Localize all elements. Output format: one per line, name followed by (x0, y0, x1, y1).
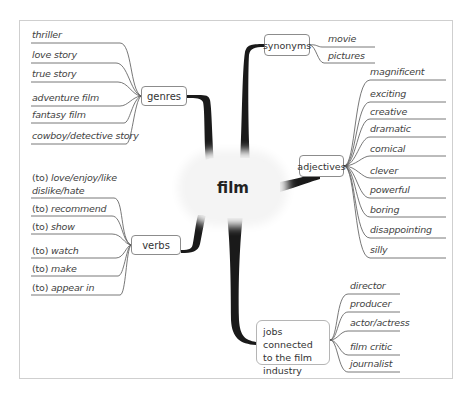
leaf-adjective: magnificent (370, 66, 424, 77)
verb-text: show (51, 221, 75, 232)
verb-text: appear in (51, 282, 94, 293)
node-synonyms-label: synonyms (263, 40, 311, 51)
leaf-adjective: silly (370, 244, 388, 255)
leaf-verb: (to) love/enjoy/like (32, 172, 117, 183)
verb-prefix: (to) (32, 263, 48, 274)
node-jobs-line-1: jobs connected (263, 325, 323, 351)
leaf-job: film critic (350, 341, 392, 352)
leaf-adjective: boring (370, 204, 399, 215)
leaf-verb-line2: dislike/hate (32, 185, 84, 196)
leaf-genre: true story (32, 68, 77, 79)
leaf-genre: love story (32, 49, 77, 60)
leaf-adjective: clever (370, 165, 398, 176)
leaf-job: actor/actress (350, 317, 410, 328)
node-verbs: verbs (131, 235, 181, 255)
leaf-job: journalist (350, 358, 392, 369)
leaf-adjective: creative (370, 106, 407, 117)
node-adjectives-label: adjectives (297, 161, 345, 172)
center-node-film: film (186, 158, 280, 218)
leaf-verb: (to) appear in (32, 282, 94, 293)
leaf-job: director (350, 280, 386, 291)
leaf-verb: (to) make (32, 263, 77, 274)
leaf-verb: (to) watch (32, 245, 79, 256)
leaf-genre: cowboy/detective story (32, 130, 139, 141)
verb-prefix: (to) (32, 221, 48, 232)
node-genres: genres (141, 86, 187, 106)
leaf-adjective: disappointing (370, 224, 432, 235)
verb-text: make (51, 263, 77, 274)
center-label: film (217, 179, 249, 197)
leaf-genre: adventure film (32, 92, 99, 103)
leaf-adjective: comical (370, 143, 405, 154)
node-genres-label: genres (147, 91, 181, 102)
leaf-synonym: movie (328, 33, 356, 44)
verb-prefix: (to) (32, 203, 48, 214)
node-adjectives: adjectives (299, 155, 344, 177)
verb-prefix: (to) (32, 282, 48, 293)
verb-prefix: (to) (32, 172, 48, 183)
leaf-synonym: pictures (328, 50, 365, 61)
leaf-verb: (to) recommend (32, 203, 106, 214)
leaf-adjective: exciting (370, 88, 406, 99)
node-jobs-line-2: to the film (263, 351, 323, 364)
node-synonyms: synonyms (264, 34, 310, 56)
leaf-genre: thriller (32, 29, 62, 40)
node-verbs-label: verbs (142, 240, 170, 251)
verb-text: watch (51, 245, 79, 256)
verb-text: recommend (51, 203, 106, 214)
leaf-genre: fantasy film (32, 109, 86, 120)
leaf-verb: (to) show (32, 221, 75, 232)
leaf-adjective: powerful (370, 184, 410, 195)
leaf-job: producer (350, 298, 391, 309)
node-jobs: jobs connected to the film industry (256, 320, 330, 365)
leaf-adjective: dramatic (370, 123, 411, 134)
verb-prefix: (to) (32, 245, 48, 256)
node-jobs-line-3: industry (263, 364, 323, 377)
verb-text: love/enjoy/like (51, 172, 117, 183)
